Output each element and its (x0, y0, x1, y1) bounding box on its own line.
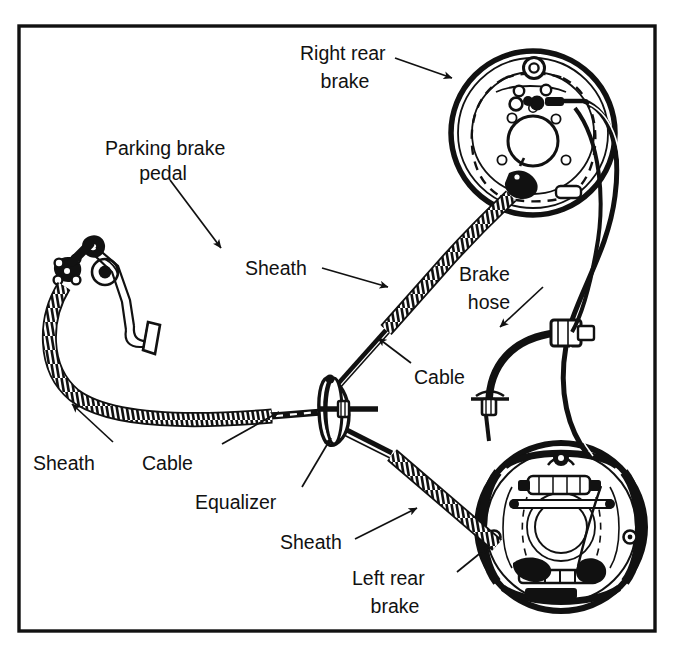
label-sheath-lower: Sheath (280, 531, 342, 553)
label-cable-left: Cable (142, 452, 193, 474)
parking-brake-system-diagram: Parking brake pedal Right rear brake She… (0, 0, 682, 654)
cable-left-run (272, 412, 322, 416)
label-left-rear-brake-line2: brake (371, 595, 420, 617)
label-brake-hose-line1: Brake (459, 263, 510, 285)
label-cable-right: Cable (414, 366, 465, 388)
label-sheath-upper: Sheath (245, 257, 307, 279)
label-left-rear-brake-line1: Left rear (352, 567, 425, 589)
label-parking-brake-pedal-line1: Parking brake (105, 137, 225, 159)
label-right-rear-brake-line2: brake (321, 70, 370, 92)
label-right-rear-brake-line1: Right rear (300, 42, 386, 64)
left-rear-brake (477, 443, 645, 611)
label-brake-hose-line2: hose (468, 291, 510, 313)
diagram-canvas: Parking brake pedal Right rear brake She… (0, 0, 682, 654)
label-sheath-left: Sheath (33, 452, 95, 474)
label-parking-brake-pedal-line2: pedal (139, 162, 187, 184)
label-equalizer: Equalizer (195, 491, 277, 513)
